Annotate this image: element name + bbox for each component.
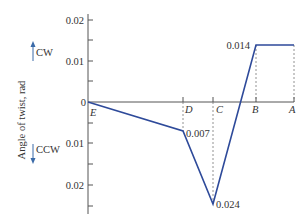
y-tick-0.01: 0.01: [66, 56, 84, 67]
cw-label: CW: [36, 47, 53, 58]
angle-of-twist-chart: 0.02 0.01 0 0.01 0.02 E D C B A 0.007 0.…: [0, 0, 308, 223]
y-tick-0.02: 0.02: [66, 15, 84, 26]
y-axis-label: Angle of twist, rad: [16, 80, 27, 159]
y-tick-neg-0.02: 0.02: [66, 180, 84, 191]
value-label-b: 0.014: [226, 40, 250, 51]
value-label-c: 0.024: [216, 199, 240, 210]
point-label-d: D: [184, 104, 193, 115]
x-ticks: [183, 97, 294, 102]
twist-angle-line: [88, 45, 294, 204]
cw-arrow-icon: [31, 41, 36, 61]
point-label-c: C: [216, 104, 224, 115]
value-label-d: 0.007: [186, 128, 210, 139]
dashed-guides: [183, 45, 294, 204]
ccw-label: CCW: [36, 144, 60, 155]
y-tick-0: 0: [81, 97, 86, 108]
y-tick-neg-0.01: 0.01: [66, 138, 84, 149]
point-label-e: E: [89, 107, 97, 118]
point-label-b: B: [252, 104, 259, 115]
point-label-a: A: [288, 104, 296, 115]
ccw-arrow-icon: [31, 144, 36, 164]
